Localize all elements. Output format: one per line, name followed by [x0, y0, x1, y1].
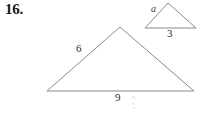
large-triangle-side-label: 6 [76, 43, 82, 54]
figure-page: 16. a 3 6 9 [0, 0, 205, 115]
small-triangle-side-label-a: a [151, 4, 156, 14]
large-triangle-base-label: 9 [115, 92, 121, 103]
small-triangle-base-label: 3 [167, 28, 173, 39]
triangles-figure [0, 0, 205, 115]
scan-artifact [130, 95, 137, 109]
